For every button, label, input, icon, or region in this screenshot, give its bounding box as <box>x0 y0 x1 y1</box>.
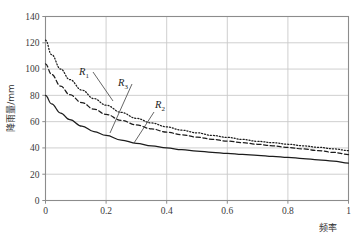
y-tick-label: 80 <box>30 91 40 101</box>
x-axis-title: 频率 <box>319 222 337 233</box>
rainfall-frequency-chart: 00.20.40.60.81 020406080100120140 R1R3R2… <box>0 0 362 240</box>
chart-container: 00.20.40.60.81 020406080100120140 R1R3R2… <box>0 0 362 240</box>
plot-background <box>0 0 362 240</box>
y-tick-label: 0 <box>35 196 40 206</box>
x-tick-label: 0 <box>43 206 48 216</box>
x-tick-label: 0.8 <box>282 206 294 216</box>
y-tick-label: 40 <box>30 143 40 153</box>
x-tick-label: 0.2 <box>100 206 112 216</box>
curve-label-subscript: 1 <box>85 72 89 80</box>
y-tick-label: 120 <box>25 38 40 48</box>
x-tick-label: 0.4 <box>161 206 173 216</box>
y-axis-title: 降雨量/mm <box>5 84 16 132</box>
y-tick-label: 140 <box>25 12 40 22</box>
y-tick-label: 60 <box>30 117 40 127</box>
curve-label-subscript: 2 <box>161 105 165 113</box>
y-tick-label: 20 <box>30 170 40 180</box>
x-axis-title-text: 频率 <box>319 222 337 233</box>
y-tick-label: 100 <box>25 64 40 74</box>
x-tick-label: 0.6 <box>221 206 233 216</box>
y-axis-title-text: 降雨量/mm <box>5 84 16 132</box>
curve-label-subscript: 3 <box>124 83 128 91</box>
x-tick-label: 1 <box>346 206 351 216</box>
